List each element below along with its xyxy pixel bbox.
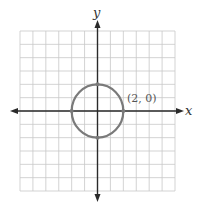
x-axis-right-arrow-icon xyxy=(176,108,184,114)
x-axis-label: x xyxy=(185,104,192,117)
x-axis-left-arrow-icon xyxy=(10,108,18,114)
y-axis-down-arrow-icon xyxy=(95,194,101,202)
intercept-point xyxy=(96,82,100,86)
intercept-point xyxy=(70,109,74,113)
axes xyxy=(10,20,184,202)
y-axis-up-arrow-icon xyxy=(95,20,101,28)
coordinate-plane xyxy=(0,0,197,213)
intercept-point xyxy=(121,109,125,113)
y-axis-label: y xyxy=(93,6,100,19)
point-annotation: (2, 0) xyxy=(127,93,157,104)
intercept-point xyxy=(96,136,100,140)
